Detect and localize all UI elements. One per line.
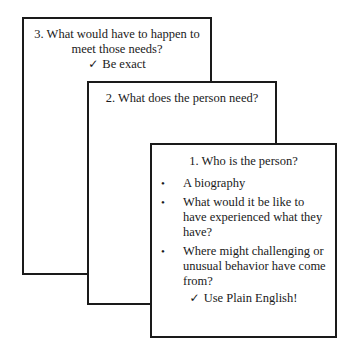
card-3-note: ✓Be exact [24,57,210,72]
card-1-bullet-list: • A biography • What would it be like to… [152,176,335,293]
card-3-title-line-1: 3. What would have to happen to [34,27,199,41]
card-2-title: 2. What does the person need? [89,91,275,106]
card-3-title: 3. What would have to happen to meet tho… [24,27,210,57]
card-3-note-text: Be exact [102,57,145,71]
bullet-icon: • [161,244,165,259]
card-1-note: ✓Use Plain English! [152,291,335,306]
bullet-icon: • [161,176,165,191]
bullet-item: • What would it be like to have experien… [152,195,335,240]
check-icon: ✓ [190,291,200,305]
bullet-item: • A biography [152,176,335,191]
card-1-note-text: Use Plain English! [204,291,298,305]
bullet-text: Where might challenging or unusual behav… [183,244,326,288]
card-step-1: 1. Who is the person? • A biography • Wh… [150,143,337,338]
bullet-item: • Where might challenging or unusual beh… [152,244,335,289]
bullet-text: A biography [183,176,245,190]
check-icon: ✓ [88,57,98,71]
bullet-icon: • [161,195,165,210]
card-1-title: 1. Who is the person? [152,154,335,169]
bullet-text: What would it be like to have experience… [183,195,322,239]
card-3-title-line-2: meet those needs? [72,42,163,56]
